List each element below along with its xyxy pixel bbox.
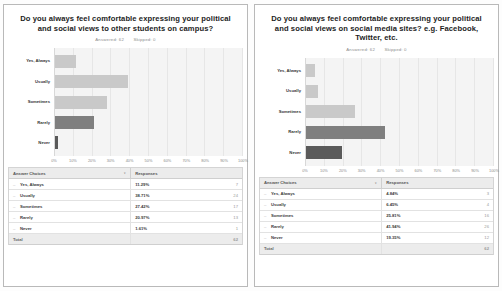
response-count: 12 <box>475 235 493 240</box>
cat-label: Usually <box>259 82 305 100</box>
cell-response-pct: 27.42% <box>130 201 224 211</box>
bullet-icon: – <box>264 224 268 229</box>
table-row[interactable]: –Usually6.45%4 <box>260 200 493 211</box>
bar <box>306 126 385 139</box>
cell-response-pct: 25.81% <box>381 211 475 221</box>
table-header: Answer Choices ▾ Responses <box>9 168 242 179</box>
total-label: Total <box>9 237 130 242</box>
cat-label: Never <box>259 144 305 162</box>
answer-choice-text: Sometimes <box>271 213 293 218</box>
table-row[interactable]: –Rarely41.94%26 <box>260 222 493 233</box>
table-row[interactable]: –Yes, Always11.29%7 <box>9 179 242 190</box>
x-tick-label: 10% <box>69 158 77 163</box>
answer-choice-text: Rarely <box>20 215 33 220</box>
response-percent: 4.84% <box>386 191 398 196</box>
total-value: 62 <box>224 237 242 242</box>
bullet-icon: – <box>264 202 268 207</box>
column-header-responses: Responses <box>381 178 475 188</box>
x-tick-label: 50% <box>145 158 153 163</box>
sort-icon[interactable]: ▾ <box>375 181 377 185</box>
response-percent: 1.61% <box>135 226 147 231</box>
answer-choice-text: Sometimes <box>20 204 42 209</box>
response-percent: 6.45% <box>386 202 398 207</box>
bullet-icon: – <box>264 235 268 240</box>
answered-count: Answered: 62 <box>95 37 124 42</box>
cell-answer-choice: –Rarely <box>9 215 130 220</box>
survey-results-page: Do you always feel comfortable expressin… <box>0 0 502 291</box>
bullet-icon: – <box>13 182 17 187</box>
plot-area <box>305 58 494 166</box>
bullet-icon: – <box>264 213 268 218</box>
table-body: –Yes, Always4.84%3–Usually6.45%4–Sometim… <box>260 189 493 244</box>
response-meta: Answered: 62 Skipped: 0 <box>8 37 243 42</box>
x-tick-label: 40% <box>377 168 385 173</box>
bar <box>306 105 355 118</box>
response-count: 16 <box>475 213 493 218</box>
survey-question-panel-0: Do you always feel comfortable expressin… <box>3 4 248 287</box>
table-row[interactable]: –Rarely20.97%13 <box>9 212 242 223</box>
x-tick-label: 100% <box>238 158 248 163</box>
bar <box>306 85 318 98</box>
response-percent: 11.29% <box>135 182 149 187</box>
x-tick-label: 60% <box>163 158 171 163</box>
column-header-answer-choices: Answer Choices <box>264 180 297 185</box>
x-tick-label: 20% <box>88 158 96 163</box>
table-row[interactable]: –Sometimes25.81%16 <box>260 211 493 222</box>
page-title: Do you always feel comfortable expressin… <box>259 10 494 43</box>
table-header: Answer Choices ▾ Responses <box>260 178 493 189</box>
response-percent: 41.94% <box>386 224 400 229</box>
response-count: 7 <box>224 182 242 187</box>
table-row[interactable]: –Sometimes27.42%17 <box>9 201 242 212</box>
response-count: 4 <box>475 202 493 207</box>
bullet-icon: – <box>13 226 17 231</box>
cell-answer-choice: –Yes, Always <box>9 182 130 187</box>
column-header-responses: Responses <box>130 168 224 178</box>
x-tick-label: 0% <box>51 158 57 163</box>
cell-answer-choice: –Never <box>9 226 130 231</box>
cat-label: Yes, Always <box>259 62 305 80</box>
cell-response-pct: 38.71% <box>130 190 224 200</box>
x-tick-label: 10% <box>320 168 328 173</box>
total-value: 62 <box>475 246 493 251</box>
response-count: 3 <box>475 191 493 196</box>
bar <box>55 55 76 68</box>
x-tick-label: 90% <box>220 158 228 163</box>
sort-icon[interactable]: ▾ <box>124 171 126 175</box>
cell-response-pct: 41.94% <box>381 222 475 232</box>
answer-choice-text: Never <box>271 235 283 240</box>
response-count: 13 <box>224 215 242 220</box>
response-count: 1 <box>224 226 242 231</box>
cat-label: Rarely <box>8 114 54 132</box>
cat-label: Sometimes <box>259 103 305 121</box>
cell-response-pct: 1.61% <box>130 223 224 233</box>
cell-answer-choice: –Never <box>260 235 381 240</box>
cat-label: Never <box>8 134 54 152</box>
bar-chart-0: Yes, Always Usually Sometimes Rarely Nev… <box>8 48 243 156</box>
answer-choice-text: Never <box>20 226 32 231</box>
table-row[interactable]: –Never1.61%1 <box>9 223 242 234</box>
answered-count: Answered: 62 <box>346 47 375 52</box>
response-percent: 38.71% <box>135 193 149 198</box>
x-tick-label: 40% <box>126 158 134 163</box>
table-row[interactable]: –Never19.35%12 <box>260 233 493 244</box>
cell-response-pct: 4.84% <box>381 189 475 199</box>
response-count: 24 <box>224 193 242 198</box>
survey-question-panel-1: Do you always feel comfortable expressin… <box>254 4 499 287</box>
cell-answer-choice: –Usually <box>9 193 130 198</box>
table-row[interactable]: –Yes, Always4.84%3 <box>260 189 493 200</box>
category-axis: Yes, Always Usually Sometimes Rarely Nev… <box>259 58 305 166</box>
answer-choice-text: Yes, Always <box>271 191 295 196</box>
x-tick-label: 50% <box>396 168 404 173</box>
x-tick-label: 60% <box>414 168 422 173</box>
x-tick-label: 80% <box>201 158 209 163</box>
table-body: –Yes, Always11.29%7–Usually38.71%24–Some… <box>9 179 242 234</box>
table-row[interactable]: –Usually38.71%24 <box>9 190 242 201</box>
answer-choice-text: Usually <box>20 193 35 198</box>
results-table-0: Answer Choices ▾ Responses –Yes, Always1… <box>8 167 243 245</box>
cell-response-pct: 19.35% <box>381 233 475 243</box>
bar <box>55 136 58 149</box>
bar <box>306 64 315 77</box>
bullet-icon: – <box>13 215 17 220</box>
page-title: Do you always feel comfortable expressin… <box>8 10 243 33</box>
x-tick-label: 90% <box>471 168 479 173</box>
